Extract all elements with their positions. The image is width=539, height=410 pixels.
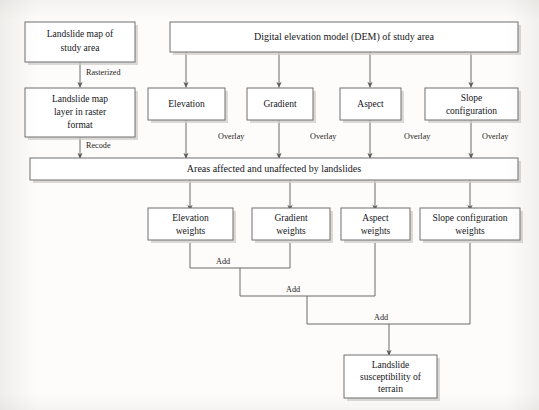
- node-dem-line1: Digital elevation model (DEM) of study a…: [254, 31, 435, 43]
- node-slope-configuration-weights-line2: weights: [455, 226, 485, 236]
- node-aspect-weights-line2: weights: [361, 226, 391, 236]
- node-slope-configuration-line2: configuration: [446, 106, 497, 116]
- edge-label-rasterized: Rasterized: [86, 68, 121, 77]
- node-landslide-map-line2: study area: [61, 43, 101, 53]
- node-landslide-map-line1: Landslide map of: [47, 29, 114, 39]
- edge-label-add-2: Add: [286, 285, 300, 294]
- node-gradient-weights-line1: Gradient: [274, 213, 308, 223]
- node-elevation-weights: Elevation weights: [148, 208, 236, 243]
- node-elevation-line1: Elevation: [168, 99, 205, 109]
- node-elevation-weights-line2: weights: [176, 226, 206, 236]
- node-areas-affected-line1: Areas affected and unaffected by landsli…: [187, 163, 361, 174]
- edge-label-add-3: Add: [374, 313, 388, 322]
- node-dem: Digital elevation model (DEM) of study a…: [170, 22, 521, 55]
- node-susceptibility-line3: terrain: [378, 384, 403, 394]
- edge-label-overlay-elevation: Overlay: [218, 132, 245, 141]
- node-areas-affected: Areas affected and unaffected by landsli…: [30, 158, 521, 183]
- node-landslide-raster-line1: Landslide map: [52, 94, 108, 104]
- edge-label-overlay-aspect: Overlay: [404, 132, 431, 141]
- node-landslide-raster-line2: layer in raster: [54, 107, 107, 117]
- edge-label-overlay-slope: Overlay: [482, 132, 509, 141]
- node-gradient-line1: Gradient: [263, 99, 297, 109]
- node-landslide-raster: Landslide map layer in raster format: [25, 88, 138, 140]
- node-elevation-weights-line1: Elevation: [172, 213, 209, 223]
- node-slope-configuration-line1: Slope: [461, 93, 483, 103]
- node-slope-configuration-weights: Slope configuration weights: [420, 208, 523, 243]
- node-landslide-raster-line3: format: [67, 120, 93, 130]
- node-susceptibility-line1: Landslide: [372, 360, 409, 370]
- node-landslide-map: Landslide map of study area: [25, 22, 138, 65]
- edge-label-recode: Recode: [86, 141, 111, 150]
- flowchart-canvas: Landslide map of study area Digital elev…: [0, 0, 539, 410]
- connector-add-3: [307, 243, 470, 324]
- connector-add-2: [240, 243, 375, 296]
- node-elevation: Elevation: [148, 88, 228, 123]
- flowchart-svg: Landslide map of study area Digital elev…: [0, 0, 539, 410]
- edge-label-add-1: Add: [216, 257, 230, 266]
- node-gradient-weights-line2: weights: [276, 226, 306, 236]
- node-susceptibility-line2: susceptibility of: [360, 372, 422, 382]
- node-aspect-weights-line1: Aspect: [362, 213, 389, 223]
- edge-label-overlay-gradient: Overlay: [310, 132, 337, 141]
- node-gradient-weights: Gradient weights: [252, 208, 333, 243]
- node-aspect-weights: Aspect weights: [341, 208, 413, 243]
- node-aspect-line1: Aspect: [357, 99, 384, 109]
- node-aspect: Aspect: [340, 88, 404, 123]
- node-gradient: Gradient: [247, 88, 316, 123]
- connector-add-1: [190, 243, 290, 268]
- node-slope-configuration-weights-line1: Slope configuration: [432, 213, 507, 223]
- node-susceptibility: Landslide susceptibility of terrain: [344, 355, 440, 401]
- node-slope-configuration: Slope configuration: [425, 88, 521, 123]
